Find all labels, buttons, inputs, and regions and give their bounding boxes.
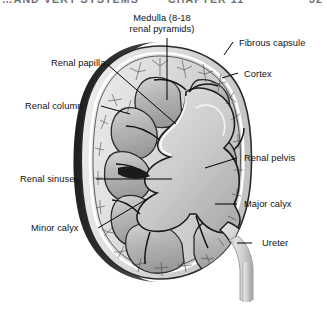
label-renal-sinuses: Renal sinuses [20, 174, 79, 185]
figure-page: …AND VERT SYSTEMS CHAPTER 11 32 [0, 0, 327, 311]
label-renal-pelvis: Renal pelvis [244, 153, 295, 164]
label-medulla-line1: Medulla (8-18 [133, 13, 191, 23]
label-cortex: Cortex [244, 69, 272, 80]
label-ureter: Ureter [262, 238, 288, 249]
label-medulla-line2: renal pyramids) [130, 24, 195, 34]
label-renal-column: Renal column [25, 101, 82, 112]
label-medulla: Medulla (8-18 renal pyramids) [116, 13, 208, 36]
ureter-shape [229, 236, 253, 302]
label-major-calyx: Major calyx [244, 199, 292, 210]
label-renal-papilla: Renal papilla [51, 58, 105, 69]
leader-fibrous-capsule [224, 42, 233, 55]
label-minor-calyx: Minor calyx [31, 223, 79, 234]
label-fibrous-capsule: Fibrous capsule [239, 38, 305, 49]
